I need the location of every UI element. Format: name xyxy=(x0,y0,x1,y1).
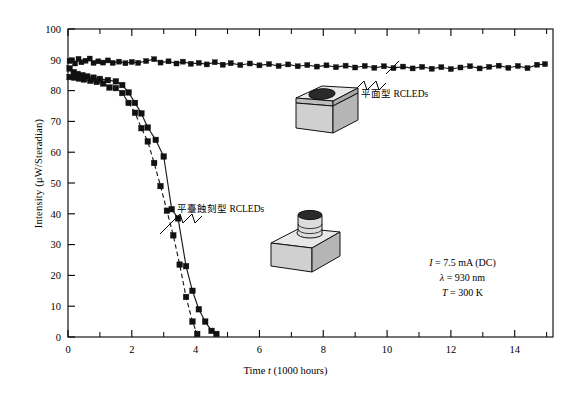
data-point-marker xyxy=(196,306,202,312)
data-point-marker xyxy=(145,125,151,131)
condition-temperature: T = 300 K xyxy=(405,285,520,300)
mesa-device-contact-cap xyxy=(298,210,322,219)
y-tick-label: 10 xyxy=(51,301,62,312)
x-tick-label: 10 xyxy=(382,344,393,355)
x-tick-label: 12 xyxy=(446,344,457,355)
data-point-marker xyxy=(132,110,138,116)
data-point-marker xyxy=(295,64,300,69)
data-point-marker xyxy=(107,85,113,91)
annotation-planar-rcleds: 平面型 RCLEDs xyxy=(361,86,428,100)
x-tick-label: 2 xyxy=(129,344,134,355)
data-point-marker xyxy=(190,288,196,294)
data-point-marker xyxy=(468,64,473,69)
data-point-marker xyxy=(94,79,100,85)
data-point-marker xyxy=(257,63,262,68)
data-point-marker xyxy=(401,64,406,69)
data-point-marker xyxy=(202,319,208,325)
data-point-marker xyxy=(170,233,176,239)
x-tick-label: 8 xyxy=(321,344,326,355)
condition-wavelength: λ = 930 nm xyxy=(405,270,520,285)
data-point-marker xyxy=(525,66,530,71)
y-tick-label: 40 xyxy=(51,209,62,220)
annotation-mesa-rcleds: 平臺蝕刻型 RCLEDs xyxy=(177,201,264,215)
y-tick-label: 60 xyxy=(51,147,62,158)
y-tick-label: 20 xyxy=(51,270,62,281)
data-point-marker xyxy=(139,125,145,131)
data-point-marker xyxy=(180,59,185,64)
data-point-marker xyxy=(204,62,209,67)
data-point-marker xyxy=(276,63,281,68)
data-point-marker xyxy=(129,59,134,64)
data-point-marker xyxy=(152,57,157,62)
measurement-conditions: I = 7.5 mA (DC) λ = 930 nm T = 300 K xyxy=(405,255,520,300)
data-point-marker xyxy=(158,60,163,65)
y-tick-label: 90 xyxy=(51,55,62,66)
data-point-marker xyxy=(362,63,367,68)
data-point-marker xyxy=(132,100,138,106)
data-point-marker xyxy=(117,59,122,64)
temperature-value: = 300 K xyxy=(448,287,483,298)
data-point-marker xyxy=(188,61,193,66)
wavelength-value: = 930 nm xyxy=(444,272,485,283)
data-point-marker xyxy=(73,61,78,66)
data-point-marker xyxy=(126,100,132,106)
data-point-marker xyxy=(429,66,434,71)
data-point-marker xyxy=(153,137,159,143)
data-point-marker xyxy=(353,65,358,70)
y-tick-label: 80 xyxy=(51,85,62,96)
data-point-marker xyxy=(183,294,189,300)
data-point-marker xyxy=(458,65,463,70)
x-tick-label: 0 xyxy=(65,344,70,355)
data-point-marker xyxy=(96,59,101,64)
data-point-marker xyxy=(91,60,96,65)
y-axis-label: Intensity (μW/Steradian) xyxy=(33,74,44,274)
data-point-marker xyxy=(151,160,157,166)
data-point-marker xyxy=(194,331,200,337)
data-point-marker xyxy=(220,62,225,67)
condition-current: I = 7.5 mA (DC) xyxy=(405,255,520,270)
x-tick-label: 6 xyxy=(257,344,262,355)
data-point-marker xyxy=(439,65,444,70)
data-point-marker xyxy=(113,79,119,85)
data-point-marker xyxy=(543,62,548,67)
data-point-marker xyxy=(247,61,252,66)
data-point-marker xyxy=(228,61,233,66)
data-point-marker xyxy=(372,65,377,70)
data-point-marker xyxy=(183,263,189,269)
x-axis-label-prefix: Time xyxy=(244,365,268,376)
data-point-marker xyxy=(166,59,171,64)
data-point-marker xyxy=(506,65,511,70)
data-point-marker xyxy=(196,60,201,65)
data-point-marker xyxy=(324,63,329,68)
x-axis-label: Time t (1000 hours) xyxy=(0,365,571,376)
x-tick-label: 4 xyxy=(193,344,199,355)
data-point-marker xyxy=(145,139,151,145)
data-point-marker xyxy=(126,90,132,96)
data-point-marker xyxy=(496,63,501,68)
data-point-marker xyxy=(174,61,179,66)
data-point-marker xyxy=(158,183,164,189)
data-point-marker xyxy=(161,154,167,160)
data-point-marker xyxy=(314,64,319,69)
data-point-marker xyxy=(123,61,128,66)
data-point-marker xyxy=(136,60,141,65)
data-point-marker xyxy=(305,63,310,68)
figure-container: 010203040506070809010002468101214 Intens… xyxy=(0,0,571,401)
data-point-marker xyxy=(286,62,291,67)
data-point-marker xyxy=(410,66,415,71)
data-point-marker xyxy=(448,67,453,72)
data-point-marker xyxy=(119,90,125,96)
device-illustration-mesa xyxy=(271,210,340,272)
device-illustration-planar xyxy=(296,86,358,133)
data-point-marker xyxy=(238,63,243,68)
data-point-marker xyxy=(487,64,492,69)
data-point-marker xyxy=(343,63,348,68)
data-point-marker xyxy=(164,208,170,214)
data-point-marker xyxy=(515,63,520,68)
x-axis-label-suffix: (1000 hours) xyxy=(271,365,328,376)
data-point-marker xyxy=(214,331,220,337)
data-point-marker xyxy=(381,64,386,69)
data-point-marker xyxy=(100,81,106,87)
planar-device-front-face xyxy=(296,103,333,133)
data-point-marker xyxy=(177,262,183,268)
